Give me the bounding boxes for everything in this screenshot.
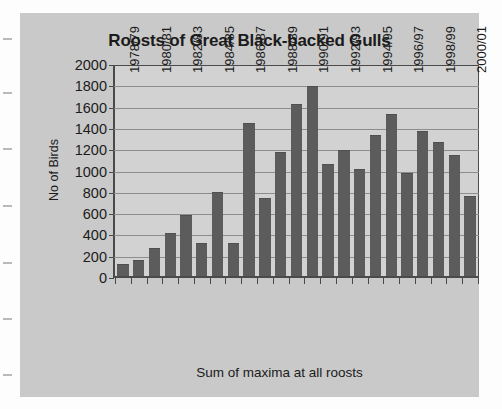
y-axis-tick [109, 65, 114, 66]
x-axis-tick [225, 278, 226, 284]
bar [464, 196, 475, 276]
y-axis-tick-label: 0 [99, 270, 107, 286]
y-axis-tick-label: 400 [83, 227, 107, 243]
scan-artifact-mark [3, 148, 12, 150]
bar [196, 243, 207, 276]
bar [228, 243, 239, 276]
scan-artifact-mark [3, 262, 12, 264]
y-axis-tick-label: 200 [83, 249, 107, 265]
bar [180, 215, 191, 276]
scan-artifact-marks [0, 0, 18, 409]
x-axis-tick [368, 278, 369, 284]
y-axis-tick-label: 1200 [75, 142, 107, 158]
bar [117, 264, 128, 276]
scan-artifact-mark [3, 205, 12, 207]
y-axis-tick-label: 1400 [75, 121, 107, 137]
scan-artifact-mark [3, 92, 12, 94]
x-axis-tick-label: 1996/97 [411, 26, 426, 73]
x-axis-tick [431, 278, 432, 284]
x-axis-tick [210, 278, 211, 284]
bar [433, 142, 444, 276]
x-axis-tick-label: 1990/91 [316, 26, 331, 73]
bar-series [115, 65, 478, 276]
x-axis-tick [194, 278, 195, 284]
bar [401, 173, 412, 276]
plot-area: 2000180016001400120010008006004002000 19… [113, 65, 479, 278]
x-axis-tick-label: 1986/87 [253, 26, 268, 73]
bar [243, 123, 254, 276]
x-axis-tick [147, 278, 148, 284]
y-axis-tick [109, 150, 114, 151]
bar [370, 135, 381, 276]
x-axis-title: Sum of maxima at all roosts [80, 365, 479, 380]
bar [165, 233, 176, 276]
x-axis-tick [399, 278, 400, 284]
x-axis-tick [336, 278, 337, 284]
x-axis-tick-label: 1998/99 [443, 26, 458, 73]
x-axis-tick [415, 278, 416, 284]
x-axis-tick-label: 1992/93 [348, 26, 363, 73]
x-axis-tick [162, 278, 163, 284]
y-axis-tick [109, 235, 114, 236]
x-axis-tick-label: 1994/95 [380, 26, 395, 73]
y-axis-tick [109, 257, 114, 258]
x-axis-tick-label: 1980/81 [159, 26, 174, 73]
bar [386, 114, 397, 276]
bar [291, 104, 302, 276]
x-axis-tick [131, 278, 132, 284]
bar [307, 86, 318, 276]
x-axis-tick [241, 278, 242, 284]
x-axis-tick [320, 278, 321, 284]
y-axis-tick [109, 86, 114, 87]
chart-panel: Roosts of Great Black-backed Gulls No of… [20, 13, 479, 397]
x-axis-tick [352, 278, 353, 284]
bar [322, 164, 333, 276]
bar [275, 152, 286, 276]
y-axis-tick-label: 600 [83, 206, 107, 222]
x-axis-tick [257, 278, 258, 284]
bar [338, 150, 349, 276]
scan-artifact-mark [3, 318, 12, 320]
y-axis-tick-label: 1600 [75, 100, 107, 116]
x-axis-tick [178, 278, 179, 284]
x-axis-tick [383, 278, 384, 284]
bar [212, 192, 223, 276]
bar [417, 131, 428, 276]
x-axis-tick [304, 278, 305, 284]
bar [354, 169, 365, 276]
x-axis-tick [478, 278, 479, 284]
y-axis-tick [109, 193, 114, 194]
scan-artifact-mark [3, 38, 12, 40]
x-axis-tick-label: 1988/89 [285, 26, 300, 73]
bar [449, 155, 460, 276]
chart-page: Roosts of Great Black-backed Gulls No of… [0, 0, 502, 409]
y-axis-title: No of Birds [47, 110, 61, 230]
x-axis-tick [273, 278, 274, 284]
bar [259, 198, 270, 276]
x-axis-tick [115, 278, 116, 284]
bar [149, 248, 160, 276]
x-axis-tick [289, 278, 290, 284]
y-axis-tick [109, 129, 114, 130]
x-axis-tick [446, 278, 447, 284]
x-axis-tick-label: 1982/83 [190, 26, 205, 73]
y-axis-tick [109, 278, 114, 279]
x-axis-tick-label: 1984/85 [222, 26, 237, 73]
scan-artifact-mark [3, 374, 12, 376]
y-axis-tick [109, 172, 114, 173]
y-axis-tick-label: 2000 [75, 57, 107, 73]
y-axis-tick [109, 214, 114, 215]
y-axis-tick-label: 1800 [75, 78, 107, 94]
bar [133, 260, 144, 276]
y-axis-tick [109, 108, 114, 109]
x-axis-tick [462, 278, 463, 284]
x-axis-tick-label: 2000/01 [474, 26, 489, 73]
y-axis-tick-label: 800 [83, 185, 107, 201]
x-axis-tick-label: 1978/79 [127, 26, 142, 73]
x-axis-ticks [115, 278, 478, 284]
y-axis-tick-label: 1000 [75, 164, 107, 180]
